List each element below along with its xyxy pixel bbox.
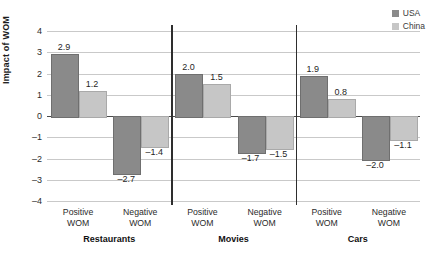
x-tick-label: NegativeWOM: [358, 207, 420, 229]
bar-value-label: 2.9: [47, 42, 81, 52]
x-group-label: Restaurants: [49, 234, 169, 244]
y-axis-title-text: Impact of WOM: [1, 0, 11, 110]
x-tick-label-line: WOM: [358, 218, 420, 229]
x-tick-label-line: WOM: [171, 218, 233, 229]
y-tick-label: –4: [32, 196, 42, 206]
x-tick-label-line: Negative: [358, 207, 420, 218]
bar-chart: USA China Impact of WOM 43210–1–2–3–4 2.…: [0, 0, 434, 259]
bar-value-label: –1.4: [137, 147, 171, 157]
bar-value-label: 2.0: [171, 62, 205, 72]
y-tick-label: 3: [37, 47, 42, 57]
y-tick-label: 2: [37, 69, 42, 79]
y-tick-label: –1: [32, 132, 42, 142]
x-tick-label-line: Negative: [109, 207, 171, 218]
bar-china-movies-negative: [266, 116, 294, 150]
x-group-label: Cars: [298, 234, 418, 244]
x-tick-label: PositiveWOM: [171, 207, 233, 229]
bar-value-label: –2.7: [109, 174, 143, 184]
bars-layer: 2.91.2–2.7–1.42.01.5–1.7–1.51.90.8–2.0–1…: [47, 31, 420, 201]
bar-value-label: –1.5: [262, 149, 296, 159]
x-tick-label-line: WOM: [234, 218, 296, 229]
x-tick-label-line: WOM: [109, 218, 171, 229]
x-tick-label-line: WOM: [47, 218, 109, 229]
bar-usa-restaurants-negative: [113, 116, 141, 175]
gridline: [47, 201, 420, 202]
legend-swatch-china: [392, 23, 399, 30]
bar-china-cars-negative: [390, 116, 418, 141]
bar-china-movies-positive: [203, 84, 231, 118]
x-tick-label-line: Positive: [47, 207, 109, 218]
x-tick-label-line: Positive: [296, 207, 358, 218]
bar-value-label: 1.5: [199, 72, 233, 82]
bar-value-label: –1.1: [386, 140, 420, 150]
legend-label-china: China: [403, 22, 425, 31]
bar-value-label: –2.0: [358, 160, 392, 170]
y-tick-label: 0: [37, 111, 42, 121]
x-tick-label: NegativeWOM: [234, 207, 296, 229]
bar-china-restaurants-positive: [79, 91, 107, 119]
legend-swatch-usa: [392, 10, 399, 17]
x-tick-label-line: Positive: [171, 207, 233, 218]
y-tick-label: 4: [37, 26, 42, 36]
y-axis-title: Impact of WOM: [1, 0, 11, 50]
x-tick-label: NegativeWOM: [109, 207, 171, 229]
bar-china-restaurants-negative: [141, 116, 169, 148]
y-tick-label: –3: [32, 175, 42, 185]
bar-usa-cars-negative: [362, 116, 390, 161]
x-group-label: Movies: [174, 234, 294, 244]
x-tick-label-line: WOM: [296, 218, 358, 229]
plot-area: 43210–1–2–3–4 2.91.2–2.7–1.42.01.5–1.7–1…: [47, 31, 420, 201]
legend-item-usa: USA: [392, 8, 425, 19]
bar-china-cars-positive: [328, 99, 356, 118]
x-tick-label: PositiveWOM: [47, 207, 109, 229]
y-tick-label: 1: [37, 90, 42, 100]
y-tick-label: –2: [32, 154, 42, 164]
bar-value-label: 1.2: [75, 79, 109, 89]
x-tick-label-line: Negative: [234, 207, 296, 218]
bar-value-label: 1.9: [296, 64, 330, 74]
legend-label-usa: USA: [403, 9, 420, 18]
x-tick-label: PositiveWOM: [296, 207, 358, 229]
bar-value-label: 0.8: [324, 87, 358, 97]
